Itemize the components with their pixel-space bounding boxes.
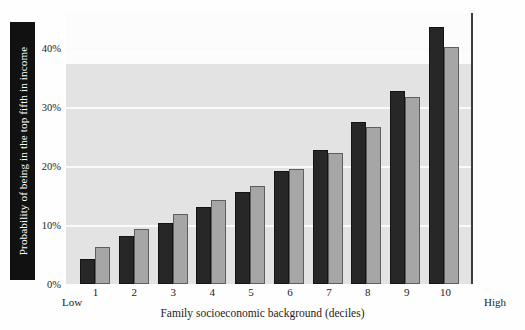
bar-group-4 (192, 13, 231, 284)
bar-group-8 (347, 13, 386, 284)
bar-dark-2[interactable] (119, 236, 134, 284)
x-axis-tick-8: 8 (348, 286, 387, 304)
x-axis-tick-6: 6 (271, 286, 310, 304)
bar-light-6[interactable] (289, 169, 304, 284)
bar-light-1[interactable] (95, 247, 110, 284)
bar-dark-10[interactable] (429, 27, 444, 284)
bar-group-3 (153, 13, 192, 284)
plot-area (66, 13, 473, 284)
bar-light-2[interactable] (134, 229, 149, 284)
bar-light-9[interactable] (405, 97, 420, 284)
bar-group-10 (424, 13, 463, 284)
x-axis-tick-2: 2 (115, 286, 154, 304)
bar-dark-9[interactable] (390, 91, 405, 284)
x-axis-tick-5: 5 (232, 286, 271, 304)
bar-dark-8[interactable] (351, 122, 366, 284)
chart-figure: Probability of being in the top fifth in… (0, 0, 525, 330)
y-axis-tick-40: 40% (42, 43, 61, 54)
y-axis-tick-0: 0% (47, 279, 61, 290)
bar-light-4[interactable] (211, 200, 226, 284)
bar-dark-3[interactable] (158, 223, 173, 284)
y-axis-label-banner: Probability of being in the top fifth in… (10, 22, 35, 280)
bar-group-5 (231, 13, 270, 284)
bar-group-2 (115, 13, 154, 284)
bar-light-10[interactable] (444, 47, 459, 284)
x-axis-tick-9: 9 (387, 286, 426, 304)
x-axis-tick-7: 7 (309, 286, 348, 304)
y-axis-tick-30: 30% (42, 102, 61, 113)
bar-group-6 (270, 13, 309, 284)
bar-dark-6[interactable] (274, 171, 289, 284)
y-axis-tick-10: 10% (42, 220, 61, 231)
bar-group-7 (308, 13, 347, 284)
bar-light-8[interactable] (366, 127, 381, 284)
y-axis-tick-labels: 0%10%20%30%40% (34, 12, 64, 290)
y-axis-title: Probability of being in the top fifth in… (17, 47, 29, 256)
bar-dark-4[interactable] (196, 207, 211, 284)
bar-dark-7[interactable] (313, 150, 328, 284)
x-axis-title: Family socioeconomic background (deciles… (0, 307, 525, 319)
x-axis-tick-4: 4 (193, 286, 232, 304)
bar-light-7[interactable] (328, 153, 343, 284)
x-axis-tick-3: 3 (154, 286, 193, 304)
bar-light-5[interactable] (250, 186, 265, 284)
bar-dark-1[interactable] (80, 259, 95, 284)
x-axis-tick-labels: 12345678910 (66, 286, 473, 304)
bar-groups (66, 13, 471, 284)
bar-group-9 (386, 13, 425, 284)
bar-dark-5[interactable] (235, 192, 250, 284)
y-axis-tick-20: 20% (42, 161, 61, 172)
x-axis-tick-10: 10 (426, 286, 465, 304)
bar-group-1 (76, 13, 115, 284)
bar-light-3[interactable] (173, 214, 188, 284)
